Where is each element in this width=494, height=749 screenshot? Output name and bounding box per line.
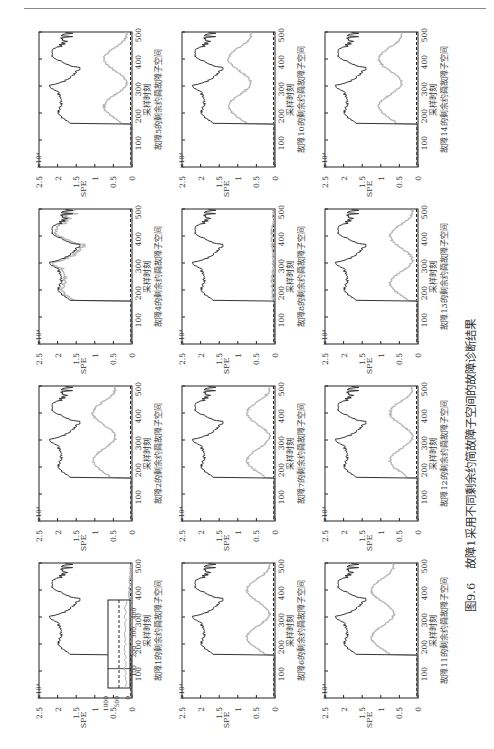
y-multiplier: ×10⁴ (35, 152, 43, 169)
reduced-subspace-curve (389, 210, 417, 345)
x-tick-label: 200 (134, 286, 143, 301)
x-tick-label: 500 (420, 28, 429, 43)
x-tick-label: 300 (420, 82, 429, 97)
x-tick-label: 200 (420, 640, 429, 655)
fault-spe-curve (335, 387, 417, 522)
subplot-title: 故障5的剩余约简故障子空间 (153, 49, 163, 150)
subplot: 00.511.522.5100200300400500×10⁴SPE采样时刻故障… (321, 382, 449, 552)
svg-text:300: 300 (130, 627, 137, 639)
x-tick-label: 200 (134, 463, 143, 478)
y-tick-label: 0.5 (395, 176, 404, 188)
x-tick-label: 200 (420, 109, 429, 124)
y-tick-label: 2 (340, 707, 349, 712)
y-tick-label: 0 (128, 530, 137, 535)
svg-text:0: 0 (124, 696, 131, 700)
y-tick-label: 2.5 (321, 707, 330, 719)
fault-spe-curve (49, 210, 131, 345)
y-tick-label: 2.5 (178, 353, 187, 365)
y-tick-label: 0 (128, 353, 137, 358)
plot-box (182, 386, 275, 521)
plot-box (325, 209, 418, 344)
x-tick-label: 500 (277, 205, 286, 220)
subplot: 00.511.522.5100200300400500×10⁴SPE采样时刻故障… (321, 205, 449, 375)
x-tick-label: 200 (277, 640, 286, 655)
y-tick-label: 0 (414, 530, 423, 535)
x-tick-label: 100 (134, 136, 143, 151)
caption-text: 故障1采用不同剩余约简故障子空间的故障诊断结果 (464, 319, 478, 568)
subplot: 00.511.522.5100200300400500×10⁴SPE采样时刻故障… (35, 28, 163, 198)
reduced-subspace-curve (246, 564, 274, 699)
y-tick-label: 2.5 (35, 353, 44, 365)
y-tick-label: 2 (54, 530, 63, 535)
y-axis-label: SPE (222, 357, 231, 374)
y-tick-label: 0.5 (109, 353, 118, 365)
x-axis-label: 采样时刻 (142, 438, 152, 470)
y-tick-label: 2 (340, 353, 349, 358)
x-tick-label: 400 (277, 232, 286, 247)
x-tick-label: 500 (277, 382, 286, 397)
y-tick-label: 0 (128, 176, 137, 181)
x-tick-label: 300 (134, 259, 143, 274)
subplot-title: 故障13的剩余约简故障子空间 (439, 223, 449, 329)
y-multiplier: ×10⁴ (35, 683, 43, 700)
x-tick-label: 300 (277, 613, 286, 628)
reduced-subspace-curve (92, 387, 132, 522)
x-tick-label: 500 (134, 382, 143, 397)
plot-box (182, 209, 275, 344)
y-multiplier: ×10⁴ (35, 506, 43, 523)
y-tick-label: 1 (377, 530, 386, 535)
y-tick-label: 0.5 (252, 353, 261, 365)
x-tick-label: 400 (420, 586, 429, 601)
fault-spe-curve (49, 33, 131, 168)
y-tick-label: 2 (197, 530, 206, 535)
subplot-title: 故障14的剩余约简故障子空间 (439, 46, 449, 152)
y-tick-label: 1 (377, 176, 386, 181)
y-tick-label: 0 (414, 707, 423, 712)
y-tick-label: 1 (377, 707, 386, 712)
y-tick-label: 2 (197, 353, 206, 358)
plot-box (39, 386, 132, 521)
x-tick-label: 100 (277, 313, 286, 328)
y-multiplier: ×10⁴ (321, 152, 329, 169)
y-tick-label: 1 (234, 530, 243, 535)
x-tick-label: 200 (420, 463, 429, 478)
y-tick-label: 0.5 (252, 530, 261, 542)
x-axis-label: 采样时刻 (428, 615, 438, 647)
subplot: 00.511.522.5100200300400500×10⁴SPE采样时刻故障… (178, 559, 306, 729)
x-tick-label: 100 (420, 667, 429, 682)
x-tick-label: 400 (420, 409, 429, 424)
y-tick-label: 0 (128, 707, 137, 712)
x-tick-label: 400 (134, 409, 143, 424)
x-tick-label: 300 (420, 613, 429, 628)
y-multiplier: ×10⁴ (178, 683, 186, 700)
y-tick-label: 1 (234, 707, 243, 712)
y-axis-label: SPE (365, 711, 374, 728)
x-axis-label: 采样时刻 (285, 438, 295, 470)
y-axis-label: SPE (365, 534, 374, 551)
subplot: 00.511.522.5100200300400500×10⁴SPE采样时刻故障… (35, 559, 163, 729)
y-tick-label: 1 (91, 353, 100, 358)
x-tick-label: 400 (420, 55, 429, 70)
y-tick-label: 0.5 (252, 176, 261, 188)
y-tick-label: 0.5 (109, 530, 118, 542)
y-tick-label: 0 (271, 353, 280, 358)
y-tick-label: 0.5 (109, 176, 118, 188)
y-tick-label: 0.5 (109, 707, 118, 719)
caption-number: 图9.6 (464, 583, 478, 612)
x-axis-label: 采样时刻 (428, 438, 438, 470)
svg-text:500: 500 (113, 696, 120, 708)
subplot: 00.511.522.5100200300400500×10⁴SPE采样时刻故障… (178, 205, 306, 375)
x-tick-label: 300 (420, 436, 429, 451)
x-tick-label: 100 (277, 136, 286, 151)
y-tick-label: 2.5 (178, 707, 187, 719)
x-tick-label: 300 (134, 82, 143, 97)
y-axis-label: SPE (79, 711, 88, 728)
x-tick-label: 400 (420, 232, 429, 247)
svg-text:400: 400 (130, 608, 137, 620)
x-tick-label: 200 (277, 463, 286, 478)
subplot-title: 故障7的剩余约简故障子空间 (296, 403, 306, 504)
y-tick-label: 1 (234, 353, 243, 358)
y-axis-label: SPE (79, 357, 88, 374)
x-tick-label: 300 (277, 436, 286, 451)
y-tick-label: 2 (197, 707, 206, 712)
